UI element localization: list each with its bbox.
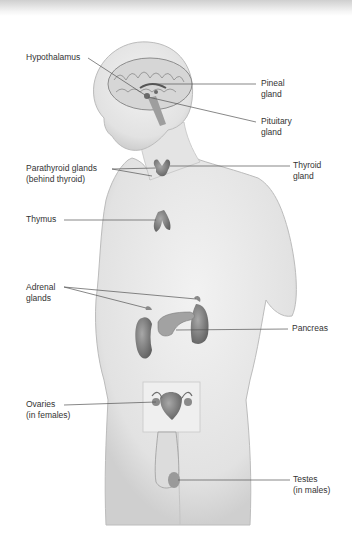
pituitary-organ — [144, 93, 150, 99]
label-hypothalamus: Hypothalamus — [26, 52, 80, 63]
label-thymus: Thymus — [26, 214, 56, 225]
label-pituitary-gland: Pituitary gland — [261, 116, 292, 138]
label-testes: Testes (in males) — [293, 474, 330, 496]
pineal-organ — [154, 90, 158, 94]
label-ovaries: Ovaries (in females) — [26, 399, 70, 421]
label-pancreas: Pancreas — [292, 323, 328, 334]
label-thyroid-gland: Thyroid gland — [293, 160, 321, 182]
right-ovary — [184, 398, 192, 406]
label-parathyroid-glands: Parathyroid glands (behind thyroid) — [26, 163, 97, 185]
label-adrenal-glands: Adrenal glands — [26, 282, 55, 304]
body-figure — [0, 0, 352, 551]
label-pineal-gland: Pineal gland — [261, 78, 285, 100]
